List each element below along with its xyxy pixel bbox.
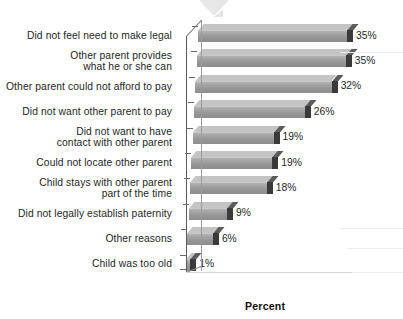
y-axis-tick [185,153,191,154]
y-axis-tick [192,26,198,27]
bar-end-cap [267,182,273,194]
bar-top-face [193,126,279,132]
y-axis-front-line [186,36,187,273]
bar-face [198,30,347,42]
bar-end-cap [227,208,233,220]
bar-value-label: 32% [341,80,362,92]
y-axis-tick [188,102,194,103]
bar-top-face [192,151,278,157]
chart-container: Did not feel need to make legalOther par… [0,0,403,319]
bar-end-cap [305,106,311,118]
y-axis-tick [187,128,193,129]
y-axis-back-line [201,20,202,271]
bar-face [197,55,346,67]
bar-top-face [194,100,310,106]
bar-face [195,81,331,93]
bar-top-face [198,24,352,30]
bar-value-label: 35% [355,55,376,67]
y-axis-tick [191,51,197,52]
bar-value-label: 26% [314,106,335,118]
bar-face [189,208,227,220]
scan-rule [340,52,403,53]
bar-end-cap [213,233,219,245]
y-axis-tick [184,178,190,179]
y-axis-tick [180,269,186,270]
bar-value-label: 19% [281,157,302,169]
bar-end-cap [346,55,352,67]
y-axis-tick [183,204,189,205]
bar-end-cap [347,30,353,42]
x-axis-title: Percent [245,300,285,312]
bar-value-label: 19% [283,131,304,143]
bar-face [193,132,274,144]
plot-area: Did not feel need to make legalOther par… [0,0,403,319]
bar-face [194,106,305,118]
bar-end-cap [274,132,280,144]
scan-rule [352,272,403,273]
y-axis-tick [189,77,195,78]
bar-end-cap [332,81,338,93]
bar-top-face [196,75,337,81]
bar-top-face [190,176,272,182]
bar-top-face [197,49,351,55]
bar-face [191,157,272,169]
bar-value-label: 9% [236,207,251,219]
scan-rule [340,228,403,229]
scan-rule [348,248,403,249]
bar-value-label: 18% [276,182,297,194]
y-axis-tick [181,229,187,230]
bar-value-label: 35% [356,30,377,42]
bar-value-label: 6% [222,233,237,245]
y-axis-tick [180,255,186,256]
bar-top-face [189,202,232,208]
bar-end-cap [272,157,278,169]
